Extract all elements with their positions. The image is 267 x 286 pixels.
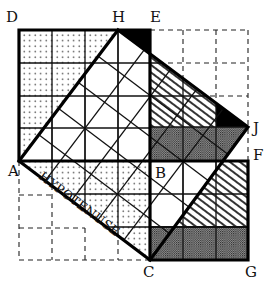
label-F: F: [253, 146, 263, 164]
crosshatched-strip-lower: [150, 227, 248, 260]
label-D: D: [6, 8, 18, 26]
label-C: C: [143, 263, 154, 281]
label-B: B: [155, 164, 166, 182]
pythagorean-diagram: D H E J F A B C G HYPOTENUSE: [0, 0, 267, 286]
label-G: G: [245, 263, 257, 281]
label-A: A: [7, 162, 19, 180]
label-J: J: [251, 119, 259, 137]
label-E: E: [150, 8, 161, 26]
label-H: H: [112, 8, 125, 26]
